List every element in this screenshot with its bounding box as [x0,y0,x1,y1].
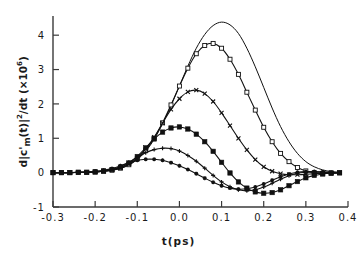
marker-open-square [186,66,190,70]
marker-filled-square [186,127,190,131]
marker-plus [152,148,156,152]
marker-filled-square [177,125,181,129]
marker-plus [169,147,173,151]
marker-asterisk [161,158,165,162]
figure-root: -0.3-0.2-0.10.00.10.20.30.4-101234 d|c'm… [0,0,357,259]
marker-filled-square [144,146,148,150]
marker-asterisk [253,185,257,189]
marker-open-square [228,57,232,61]
marker-open-square [279,151,283,155]
marker-asterisk [220,184,224,188]
marker-filled-square [228,171,232,175]
series-line [53,43,340,173]
marker-asterisk [76,170,80,174]
y-tick-label: 2 [38,99,45,110]
marker-asterisk [118,164,122,168]
marker-cross [177,97,181,101]
y-tick-label: -1 [33,202,45,213]
marker-open-square [253,108,257,112]
marker-asterisk [177,164,181,168]
marker-open-square [220,46,224,50]
y-tick-label: 0 [38,167,45,178]
marker-asterisk [59,171,63,175]
marker-asterisk [279,175,283,179]
marker-asterisk [127,161,131,165]
marker-cross [203,92,207,96]
x-tick-label: 0.3 [296,212,315,223]
x-tick-label: 0.4 [339,212,357,223]
marker-asterisk [51,171,55,175]
x-tick-label: 0.2 [254,212,273,223]
marker-open-square [203,43,207,47]
marker-cross [245,148,249,152]
marker-cross [236,136,240,140]
marker-asterisk [304,170,308,174]
marker-asterisk [203,176,207,180]
series-line [53,22,340,173]
marker-open-square [295,165,299,169]
y-tick-label: 4 [38,30,45,41]
y-axis-title: d|c'm(t)|2/dt (×106) [16,42,32,182]
marker-open-square [194,52,198,56]
marker-filled-square [262,191,266,195]
x-tick-label: -0.1 [126,212,150,223]
marker-filled-square [203,140,207,144]
marker-asterisk [270,178,274,182]
marker-filled-square [270,190,274,194]
marker-open-square [236,72,240,76]
series-curve-1-no-marker [53,22,340,173]
marker-asterisk [295,170,299,174]
marker-plus [161,146,165,150]
y-tick-label: 1 [38,133,45,144]
marker-open-square [177,84,181,88]
marker-asterisk [329,170,333,174]
marker-asterisk [186,168,190,172]
marker-asterisk [93,169,97,173]
marker-open-square [287,160,291,164]
marker-asterisk [144,157,148,161]
marker-cross [262,165,266,169]
marker-asterisk [312,170,316,174]
marker-asterisk [152,157,156,161]
marker-asterisk [68,171,72,175]
y-tick-label: 3 [38,64,45,75]
series-curve-2-open-square [51,41,342,175]
marker-asterisk [194,172,198,176]
marker-open-square [270,140,274,144]
tick-labels-group: -0.3-0.2-0.10.00.10.20.30.4-101234 [33,30,357,223]
marker-asterisk [169,161,173,165]
marker-filled-square [287,183,291,187]
x-tick-label: 0.1 [212,212,231,223]
marker-open-square [169,103,173,107]
marker-filled-square [219,160,223,164]
marker-filled-square [304,176,308,180]
x-tick-label: -0.3 [41,212,65,223]
marker-filled-square [211,149,215,153]
marker-asterisk [287,172,291,176]
x-tick-label: 0.0 [170,212,189,223]
marker-asterisk [135,158,139,162]
marker-cross [220,111,224,115]
marker-asterisk [102,168,106,172]
marker-filled-square [278,188,282,192]
data-series-group [51,22,342,195]
marker-filled-square [236,180,240,184]
marker-filled-square [152,137,156,141]
marker-asterisk [262,182,266,186]
marker-asterisk [211,180,215,184]
marker-asterisk [245,187,249,191]
marker-open-square [262,125,266,129]
marker-asterisk [236,187,240,191]
x-tick-label: -0.2 [83,212,107,223]
marker-filled-square [169,126,173,130]
marker-asterisk [228,186,232,190]
marker-cross [211,100,215,104]
marker-asterisk [321,170,325,174]
marker-cross [186,90,190,94]
marker-cross [228,124,232,128]
marker-plus [177,149,181,153]
marker-asterisk [338,171,342,175]
marker-open-square [211,41,215,45]
marker-open-square [245,90,249,94]
chart-canvas: -0.3-0.2-0.10.00.10.20.30.4-101234 [0,0,357,259]
